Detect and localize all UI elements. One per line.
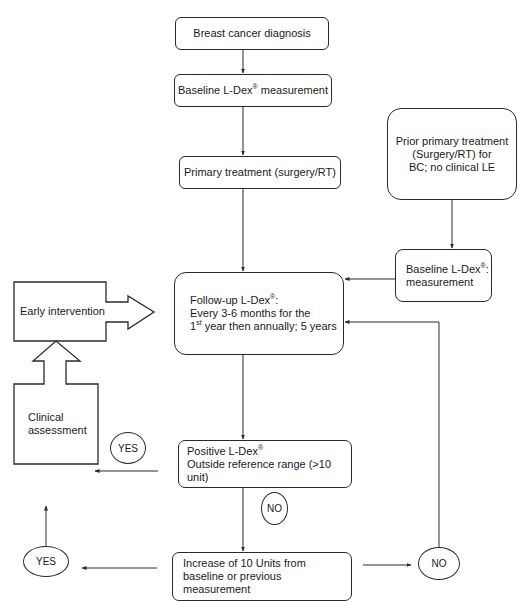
node-prior-line2: (Surgery/RT) for: [412, 148, 491, 160]
node-positive-line1: Positive L-Dex: [187, 445, 258, 457]
node-increase: Increase of 10 Units from baseline or pr…: [172, 552, 352, 601]
node-diagnosis: Breast cancer diagnosis: [175, 17, 329, 50]
node-follow-up: Follow-up L-Dex®: Every 3-6 months for t…: [174, 272, 344, 355]
node-prior-line3: BC; no clinical LE: [409, 161, 495, 173]
node-prior-line1: Prior primary treatment: [396, 135, 508, 147]
node-baseline-prior: Baseline L-Dex®: measurement: [395, 249, 492, 302]
decision-yes-positive: YES: [110, 432, 146, 464]
node-increase-line2: baseline or previous measurement: [183, 570, 281, 595]
node-follow-up-line1: Follow-up L-Dex: [190, 294, 270, 306]
decision-yes-increase: YES: [23, 546, 69, 577]
node-primary-treatment-label: Primary treatment (surgery/RT): [184, 166, 336, 179]
node-baseline-label: Baseline L-Dex: [178, 84, 253, 96]
node-prior-treatment: Prior primary treatment (Surgery/RT) for…: [387, 108, 517, 200]
node-positive-line2: Outside reference range (>10 unit): [187, 458, 331, 483]
decision-no-positive: NO: [261, 492, 288, 525]
decision-no-increase: NO: [418, 547, 460, 580]
node-baseline-prior-line1: Baseline L-Dex: [406, 263, 481, 275]
edge-no-loop-followup: [345, 322, 439, 547]
clinical-assessment-label: Clinical assessment: [28, 411, 87, 437]
node-primary-treatment: Primary treatment (surgery/RT): [179, 156, 341, 189]
node-baseline-prior-line2: measurement: [406, 276, 473, 288]
clinical-assessment-shape: [14, 341, 98, 464]
node-increase-line1: Increase of 10 Units from: [183, 557, 306, 569]
node-baseline: Baseline L-Dex® measurement: [174, 74, 332, 107]
node-follow-up-line2: Every 3-6 months for the: [190, 307, 310, 319]
node-positive: Positive L-Dex® Outside reference range …: [178, 440, 352, 488]
node-diagnosis-label: Breast cancer diagnosis: [193, 27, 310, 40]
early-intervention-label: Early intervention: [20, 305, 105, 318]
